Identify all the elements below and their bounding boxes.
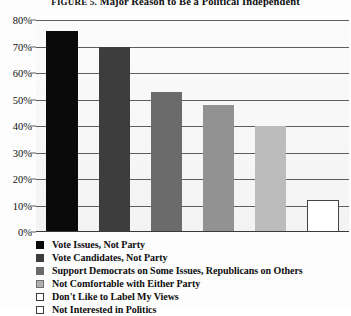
legend-swatch-icon <box>36 241 44 249</box>
legend-label: Don't Like to Label My Views <box>52 291 179 302</box>
plot-area <box>36 20 349 232</box>
bar-slot <box>36 20 88 232</box>
chart-legend: Vote Issues, Not PartyVote Candidates, N… <box>36 238 346 316</box>
bar-slot <box>245 20 297 232</box>
bar[interactable] <box>307 200 338 232</box>
y-axis: 80%70%60%50%40%30%20%10%0% <box>0 20 36 232</box>
bar[interactable] <box>46 31 77 232</box>
axis-baseline <box>36 231 349 232</box>
legend-row[interactable]: Not Comfortable with Either Party <box>36 277 346 290</box>
bar[interactable] <box>255 126 286 232</box>
legend-row[interactable]: Don't Like to Label My Views <box>36 290 346 303</box>
legend-row[interactable]: Vote Candidates, Not Party <box>36 251 346 264</box>
legend-row[interactable]: Vote Issues, Not Party <box>36 238 346 251</box>
bar-slot <box>193 20 245 232</box>
legend-swatch-icon <box>36 267 44 275</box>
figure-title-text: Major Reason to Be a Political Independe… <box>97 0 300 7</box>
bar[interactable] <box>151 92 182 232</box>
legend-swatch-icon <box>36 293 44 301</box>
bar-series <box>36 20 349 232</box>
chart-title: FIGURE 5. Major Reason to Be a Political… <box>0 0 351 7</box>
legend-swatch-icon <box>36 280 44 288</box>
legend-swatch-icon <box>36 254 44 262</box>
legend-swatch-icon <box>36 306 44 314</box>
bar-slot <box>88 20 140 232</box>
bar-slot <box>140 20 192 232</box>
legend-label: Support Democrats on Some Issues, Republ… <box>52 265 303 276</box>
figure-number-label: FIGURE 5. <box>51 0 97 7</box>
legend-label: Not Interested in Politics <box>52 304 156 315</box>
bar[interactable] <box>99 47 130 233</box>
legend-label: Vote Issues, Not Party <box>52 239 145 250</box>
bar[interactable] <box>203 105 234 232</box>
legend-label: Vote Candidates, Not Party <box>52 252 168 263</box>
legend-row[interactable]: Not Interested in Politics <box>36 303 346 316</box>
legend-row[interactable]: Support Democrats on Some Issues, Republ… <box>36 264 346 277</box>
plot-wrap <box>36 20 349 232</box>
legend-label: Not Comfortable with Either Party <box>52 278 200 289</box>
bar-slot <box>297 20 349 232</box>
